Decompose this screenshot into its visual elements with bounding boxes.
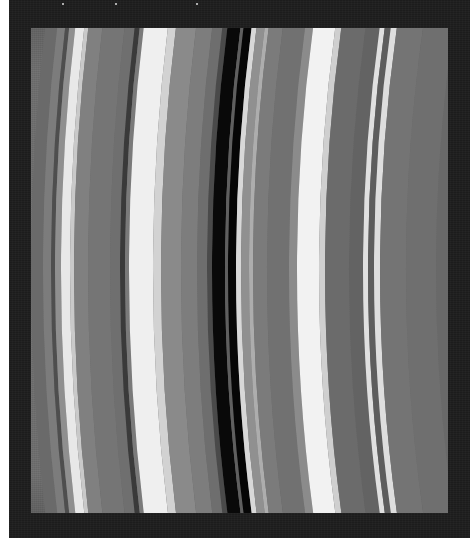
image-description: Grayscale close-up of curved planetary r… bbox=[0, 0, 1, 1]
ring-band-arc-stack bbox=[31, 28, 448, 513]
ring-image-viewport bbox=[31, 28, 448, 513]
star-point bbox=[196, 3, 198, 5]
star-point bbox=[115, 3, 117, 5]
page-root: Grayscale close-up of curved planetary r… bbox=[0, 0, 470, 538]
photo-border-frame bbox=[9, 0, 470, 538]
star-point bbox=[62, 3, 64, 5]
